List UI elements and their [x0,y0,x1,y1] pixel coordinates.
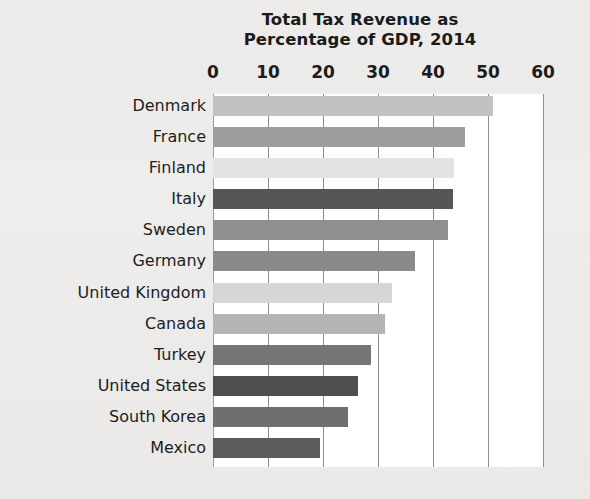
bar[interactable] [213,158,454,178]
bar-category-label: United States [98,374,206,398]
bar-row[interactable]: Mexico [0,436,590,467]
x-tick-label-20: 20 [301,62,345,82]
x-axis-tick-labels: 0102030405060 [0,62,590,86]
bar-row[interactable]: South Korea [0,405,590,436]
bar-row[interactable]: Finland [0,156,590,187]
bar[interactable] [213,345,371,365]
bar-category-label: Canada [145,312,206,336]
bar-chart-figure: Total Tax Revenue as Percentage of GDP, … [0,0,590,499]
chart-title-line-1: Total Tax Revenue as [150,10,570,30]
bar[interactable] [213,376,358,396]
bar[interactable] [213,96,493,116]
bar-category-label: United Kingdom [78,281,206,305]
x-tick-label-60: 60 [521,62,565,82]
x-tick-label-50: 50 [466,62,510,82]
x-tick-label-0: 0 [191,62,235,82]
bar[interactable] [213,189,453,209]
x-tick-label-30: 30 [356,62,400,82]
bar[interactable] [213,251,415,271]
bar-category-label: Sweden [143,218,206,242]
bar[interactable] [213,407,348,427]
x-tick-label-40: 40 [411,62,455,82]
bar-category-label: Finland [149,156,206,180]
bar[interactable] [213,127,465,147]
bar-row[interactable]: Canada [0,312,590,343]
chart-title: Total Tax Revenue as Percentage of GDP, … [150,10,570,50]
bar-row[interactable]: United States [0,374,590,405]
bar[interactable] [213,220,448,240]
bar-row[interactable]: Turkey [0,343,590,374]
bar-row[interactable]: Germany [0,249,590,280]
x-tick-label-10: 10 [246,62,290,82]
bar-category-label: Mexico [150,436,206,460]
bar-row[interactable]: United Kingdom [0,281,590,312]
bar-category-label: Italy [171,187,206,211]
bar-category-label: South Korea [109,405,206,429]
bar-row[interactable]: Denmark [0,94,590,125]
bar-row[interactable]: Italy [0,187,590,218]
bar[interactable] [213,438,320,458]
bar-row[interactable]: Sweden [0,218,590,249]
bar-category-label: Denmark [132,94,206,118]
bar[interactable] [213,314,385,334]
bar-category-label: Turkey [154,343,206,367]
bar-category-label: Germany [132,249,206,273]
bar-category-label: France [153,125,206,149]
bar-row[interactable]: France [0,125,590,156]
chart-title-line-2: Percentage of GDP, 2014 [150,30,570,50]
bar-rows: DenmarkFranceFinlandItalySwedenGermanyUn… [0,94,590,467]
bar[interactable] [213,283,392,303]
